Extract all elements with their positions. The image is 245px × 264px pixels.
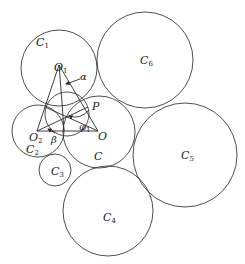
label-alpha: α — [80, 71, 87, 82]
label-c1: C1 — [36, 36, 49, 50]
label-c6: C6 — [140, 54, 153, 68]
label-c5: C5 — [181, 149, 194, 163]
label-o2: O2 — [29, 131, 43, 145]
label-beta: β — [50, 134, 57, 145]
label-o: O — [98, 130, 107, 143]
label-c3: C3 — [51, 165, 64, 179]
tangent-circles-diagram: C1 C2 C C3 C4 C5 C6 O1 O2 O P α β φ1 — [0, 0, 245, 264]
label-p: P — [91, 100, 100, 113]
label-c4: C4 — [103, 211, 116, 225]
label-o1: O1 — [54, 61, 68, 75]
label-c: C — [94, 150, 103, 163]
label-phi1: φ1 — [79, 121, 90, 134]
label-c2: C2 — [26, 143, 39, 157]
